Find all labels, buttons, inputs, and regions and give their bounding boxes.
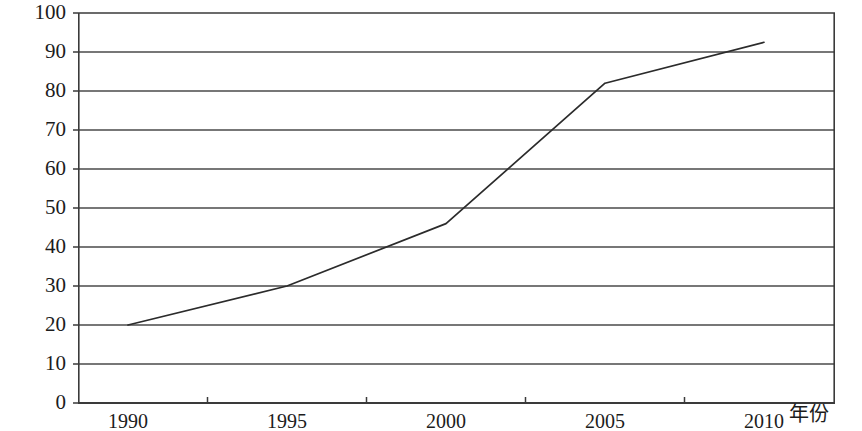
chart-canvas <box>0 0 862 431</box>
x-axis-tick-label: 2000 <box>396 411 496 431</box>
x-axis-tick-label: 2005 <box>555 411 655 431</box>
y-axis-tick-label: 50 <box>0 197 66 218</box>
line-chart: 0102030405060708090100 19901995200020052… <box>0 0 862 431</box>
y-axis-tick-label: 80 <box>0 80 66 101</box>
y-axis-tick-label: 60 <box>0 158 66 179</box>
y-axis-tick-label: 70 <box>0 119 66 140</box>
y-axis-tick-label: 20 <box>0 314 66 335</box>
y-axis-tick-label: 90 <box>0 41 66 62</box>
y-axis-tick-label: 40 <box>0 236 66 257</box>
y-axis-tick-label: 10 <box>0 353 66 374</box>
x-axis-title: 年份 <box>789 404 829 424</box>
y-axis-tick-label: 0 <box>0 392 66 413</box>
y-axis-ticks <box>73 13 78 403</box>
y-axis-tick-label: 30 <box>0 275 66 296</box>
x-axis-tick-label: 1990 <box>78 411 178 431</box>
y-axis-tick-label: 100 <box>0 2 66 23</box>
x-axis-tick-label: 1995 <box>237 411 337 431</box>
